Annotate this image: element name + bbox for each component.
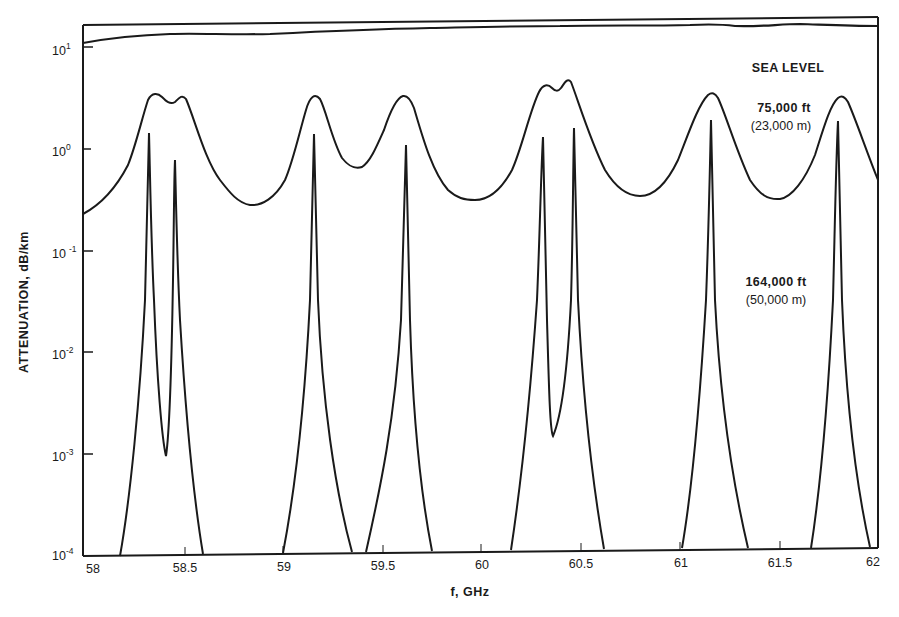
svg-text:101: 101 xyxy=(52,41,71,58)
svg-text:10-2: 10-2 xyxy=(52,345,74,362)
svg-text:SEA LEVEL: SEA LEVEL xyxy=(752,61,825,75)
svg-text:62: 62 xyxy=(866,555,880,569)
series-164000-ft xyxy=(120,120,870,556)
svg-text:61: 61 xyxy=(674,556,688,570)
svg-text:164,000 ft: 164,000 ft xyxy=(746,275,807,289)
svg-text:75,000 ft: 75,000 ft xyxy=(757,101,811,115)
attenuation-chart: 101 100 10-1 10-2 10-3 10-4 58 58.5 59 5… xyxy=(0,0,899,617)
x-axis-tick-labels: 58 58.5 59 59.5 60 60.5 61 61.5 62 xyxy=(86,555,880,576)
annotation-75000-ft: 75,000 ft (23,000 m) xyxy=(751,101,811,133)
y-axis-tick-labels: 101 100 10-1 10-2 10-3 10-4 xyxy=(52,41,77,563)
svg-text:61.5: 61.5 xyxy=(768,556,792,570)
svg-text:60: 60 xyxy=(475,558,489,572)
x-axis-title: f, GHz xyxy=(450,585,489,599)
svg-text:100: 100 xyxy=(52,142,71,159)
svg-text:60.5: 60.5 xyxy=(569,557,593,571)
svg-text:58: 58 xyxy=(86,562,100,576)
y-axis-ticks xyxy=(83,47,93,454)
annotation-sea-level: SEA LEVEL xyxy=(752,61,825,75)
svg-text:10-1: 10-1 xyxy=(52,244,77,261)
svg-text:(23,000 m): (23,000 m) xyxy=(751,119,811,133)
svg-text:(50,000 m): (50,000 m) xyxy=(746,293,806,307)
annotation-164000-ft: 164,000 ft (50,000 m) xyxy=(746,275,807,307)
svg-text:58.5: 58.5 xyxy=(173,561,197,575)
y-axis-title: ATTENUATION, dB/km xyxy=(17,231,31,373)
svg-text:59.5: 59.5 xyxy=(371,559,395,573)
series-sea-level xyxy=(83,24,878,43)
svg-text:10-4: 10-4 xyxy=(52,546,74,563)
svg-text:59: 59 xyxy=(277,560,291,574)
svg-text:10-3: 10-3 xyxy=(52,447,74,464)
